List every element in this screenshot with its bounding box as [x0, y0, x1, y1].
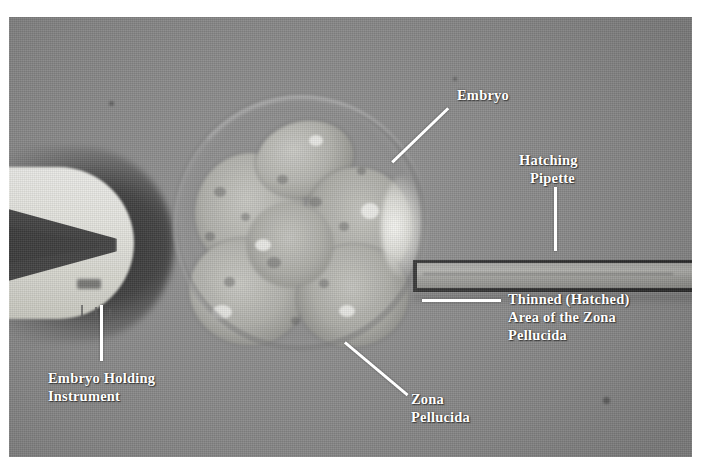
hatching-pipette: [413, 260, 692, 294]
embryo-holding-instrument-label-line1: Embryo Holding: [48, 370, 155, 387]
debris-speck: [603, 397, 610, 404]
thinned-zona-leader-line: [422, 299, 501, 302]
zona-pellucida-highlight: [174, 95, 428, 353]
hatching-pipette-label-line2: Pipette: [530, 170, 575, 187]
hatching-pipette-inner-wall: [423, 273, 673, 275]
thinned-zona-label-line2: Area of the Zona: [508, 309, 616, 326]
hatching-pipette-leader-line: [554, 187, 557, 251]
hatching-pipette-lumen: [416, 263, 692, 288]
zona-pellucida-label-line2: Pellucida: [411, 409, 470, 426]
debris-speck: [109, 101, 114, 106]
thinned-zona-label-line1: Thinned (Hatched): [508, 291, 629, 308]
hatching-pipette-wall-top: [413, 260, 692, 263]
holding-pipette-smudge: [77, 279, 101, 289]
hatching-pipette-tip: [413, 260, 417, 292]
holding-pipette-tick: [95, 307, 97, 317]
embryo-holding-instrument-label-line2: Instrument: [48, 388, 120, 405]
embryo-holding-instrument-leader-line: [100, 305, 103, 361]
microscopy-figure: Embryo Hatching Pipette Thinned (Hatched…: [0, 0, 710, 471]
holding-pipette-tick: [109, 309, 111, 318]
thinned-zona-label-line3: Pellucida: [508, 327, 567, 344]
debris-speck: [453, 77, 457, 81]
holding-pipette-tick: [81, 305, 83, 317]
embryo-label: Embryo: [457, 87, 509, 104]
zona-pellucida-label-line1: Zona: [411, 391, 444, 408]
hatching-pipette-label-line1: Hatching: [519, 152, 578, 169]
